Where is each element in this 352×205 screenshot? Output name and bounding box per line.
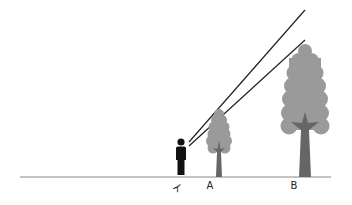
tree-a-label: A [207, 180, 214, 191]
observer-label: イ [172, 180, 182, 195]
tree-a [206, 109, 232, 177]
observer-person [176, 138, 186, 175]
tree-b [281, 44, 330, 177]
tree-b-label: B [291, 180, 298, 191]
diagram-canvas [0, 0, 352, 205]
